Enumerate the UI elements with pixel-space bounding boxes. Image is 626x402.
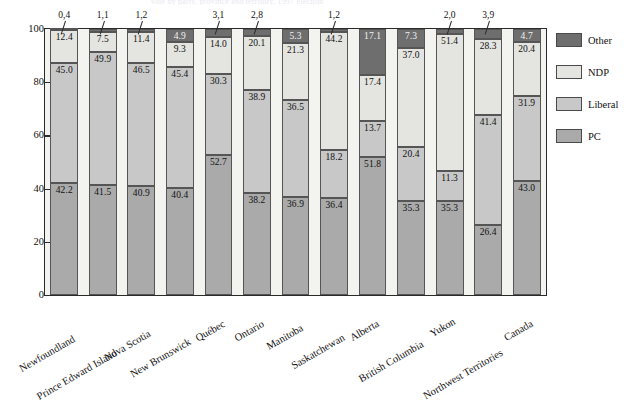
bar-segment-value: 44.2 (326, 33, 343, 45)
bar-segment-value: 11.3 (441, 172, 458, 184)
legend-item[interactable]: NDP (556, 58, 624, 86)
bar-segment-value: 36.9 (287, 198, 304, 210)
bar-segment-value: 7.5 (97, 33, 109, 45)
bar-segment-ndp[interactable]: 44.2 (320, 32, 348, 150)
legend-swatch (556, 65, 582, 79)
legend-label: Other (588, 35, 612, 46)
bar-segment-value: 21.3 (287, 44, 304, 56)
bar-segment-value: 46.5 (133, 64, 150, 76)
bar-segment-ndp[interactable]: 20.1 (243, 36, 271, 89)
legend-item[interactable]: Other (556, 26, 624, 54)
y-axis-tick-label: 0 (14, 290, 44, 300)
bar-segment-ndp[interactable]: 28.3 (474, 39, 502, 114)
bar-column[interactable]: 35.311.351.42.0 (436, 29, 464, 295)
x-axis-category-label: Saskatchewan (289, 332, 346, 371)
y-axis-tick-label: 80 (14, 77, 44, 87)
bar-segment-liberal[interactable]: 38.9 (243, 90, 271, 193)
bar-segment-other[interactable]: 3.1 (205, 29, 233, 37)
bar-segment-value: 49.9 (94, 53, 111, 65)
bar-segment-pc[interactable]: 41.5 (89, 185, 117, 295)
bar-segment-pc[interactable]: 35.3 (397, 201, 425, 295)
bar-segment-ndp[interactable]: 7.5 (89, 32, 117, 52)
bar-segment-ndp[interactable]: 21.3 (282, 43, 310, 100)
bar-segment-value: 41.4 (480, 116, 497, 128)
bar-segment-ndp[interactable]: 9.3 (166, 42, 194, 67)
bar-segment-ndp[interactable]: 12.4 (50, 30, 78, 63)
bar-segment-pc[interactable]: 51.8 (359, 157, 387, 295)
bar-segment-pc[interactable]: 43.0 (513, 181, 541, 295)
bar-segment-other[interactable]: 1.1 (89, 29, 117, 32)
bar-segment-other[interactable]: 17.1 (359, 29, 387, 74)
bar-segment-other[interactable]: 2.0 (436, 29, 464, 34)
bar-segment-other[interactable]: 2.8 (243, 29, 271, 36)
bar-segment-other[interactable]: 4.7 (513, 29, 541, 42)
bar-column[interactable]: 51.813.717.417.1 (359, 29, 387, 295)
bar-segment-other[interactable]: 3.9 (474, 29, 502, 39)
bar-segment-pc[interactable]: 35.3 (436, 201, 464, 295)
cut-off-title: Vote by party, province and territory, 1… (150, 0, 490, 5)
x-axis-category-label: Yukon (428, 316, 457, 339)
bar-column[interactable]: 42.245.012.40.4 (50, 29, 78, 295)
x-axis-category-label: Manitoba (265, 322, 305, 352)
bar-segment-liberal[interactable]: 11.3 (436, 171, 464, 201)
bar-segment-pc[interactable]: 36.4 (320, 198, 348, 295)
x-axis-category-label: British Columbia (357, 338, 425, 384)
bar-segment-ndp[interactable]: 20.4 (513, 42, 541, 96)
bar-segment-other[interactable]: 7.3 (397, 29, 425, 48)
bar-segment-liberal[interactable]: 30.3 (205, 74, 233, 155)
bar-segment-value: 4.7 (521, 30, 533, 42)
bar-segment-other[interactable]: 4.9 (166, 29, 194, 42)
bar-segment-value: 13.7 (364, 122, 381, 134)
bar-segment-pc[interactable]: 36.9 (282, 197, 310, 295)
bar-segment-pc[interactable]: 38.2 (243, 193, 271, 295)
bar-segment-liberal[interactable]: 31.9 (513, 96, 541, 181)
bar-column[interactable]: 41.549.97.51.1 (89, 29, 117, 295)
bar-segment-liberal[interactable]: 46.5 (127, 63, 155, 187)
bar-segment-pc[interactable]: 52.7 (205, 155, 233, 295)
bar-segment-liberal[interactable]: 45.4 (166, 67, 194, 188)
bar-segment-ndp[interactable]: 14.0 (205, 37, 233, 74)
bar-segment-other[interactable]: 1.2 (320, 29, 348, 32)
bar-segment-ndp[interactable]: 11.4 (127, 32, 155, 62)
bar-segment-liberal[interactable]: 13.7 (359, 121, 387, 157)
bar-column[interactable]: 36.418.244.21.2 (320, 29, 348, 295)
legend-item[interactable]: PC (556, 122, 624, 150)
bar-segment-ndp[interactable]: 37.0 (397, 48, 425, 146)
bar-segment-ndp[interactable]: 17.4 (359, 75, 387, 121)
bar-segment-value: 35.3 (441, 202, 458, 214)
bar-segment-liberal[interactable]: 45.0 (50, 63, 78, 183)
bar-segment-pc[interactable]: 40.9 (127, 186, 155, 295)
bar-column[interactable]: 35.320.437.07.3 (397, 29, 425, 295)
bar-segment-liberal[interactable]: 49.9 (89, 52, 117, 185)
other-value-callout: 3,9 (474, 10, 502, 20)
bar-column[interactable]: 52.730.314.03.1 (205, 29, 233, 295)
bar-column[interactable]: 43.031.920.44.7 (513, 29, 541, 295)
bar-segment-pc[interactable]: 40.4 (166, 188, 194, 295)
bar-column[interactable]: 36.936.521.35.3 (282, 29, 310, 295)
bar-segment-value: 7.3 (405, 30, 417, 42)
bar-segment-ndp[interactable]: 51.4 (436, 34, 464, 171)
x-axis-category-label: Canada (502, 318, 535, 343)
legend-item[interactable]: Liberal (556, 90, 624, 118)
bar-segment-value: 5.3 (289, 30, 301, 42)
bar-segment-pc[interactable]: 26.4 (474, 225, 502, 295)
other-value-callout: 2,8 (243, 10, 271, 20)
bar-segment-liberal[interactable]: 41.4 (474, 115, 502, 225)
bar-segment-value: 18.2 (326, 151, 343, 163)
bar-segment-other[interactable]: 0.4 (50, 28, 78, 30)
bar-segment-other[interactable]: 1.2 (127, 29, 155, 32)
bar-segment-other[interactable]: 5.3 (282, 29, 310, 43)
bar-column[interactable]: 40.946.511.41.2 (127, 29, 155, 295)
bar-segment-value: 51.4 (441, 35, 458, 47)
bar-segment-liberal[interactable]: 36.5 (282, 100, 310, 197)
bar-segment-value: 31.9 (518, 97, 535, 109)
bar-segment-liberal[interactable]: 20.4 (397, 147, 425, 201)
bar-segment-value: 30.3 (210, 75, 227, 87)
bar-column[interactable]: 38.238.920.12.8 (243, 29, 271, 295)
bar-segment-pc[interactable]: 42.2 (50, 183, 78, 295)
bar-segment-liberal[interactable]: 18.2 (320, 150, 348, 198)
y-axis-tick-label: 60 (14, 130, 44, 140)
bar-column[interactable]: 26.441.428.33.9 (474, 29, 502, 295)
bar-column[interactable]: 40.445.49.34.9 (166, 29, 194, 295)
bar-segment-value: 41.5 (94, 186, 111, 198)
